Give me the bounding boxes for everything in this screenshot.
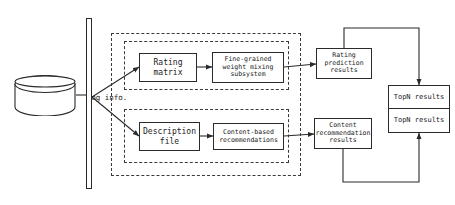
node-topn-results-upper[interactable]: TopN results xyxy=(388,85,450,109)
pipeline-split-bar xyxy=(86,18,92,189)
node-rating-matrix[interactable]: Rating matrix xyxy=(139,53,197,82)
log-info-cylinder: Log info. xyxy=(14,75,76,116)
node-content-recommendation-results[interactable]: Content recommendation results xyxy=(314,118,372,149)
node-content-based-recommendations[interactable]: Content-based recommendations xyxy=(213,123,284,150)
node-description-file[interactable]: Description file xyxy=(139,122,200,151)
node-rating-prediction-results[interactable]: Rating prediction results xyxy=(316,48,372,79)
node-fine-grained-weight-mixing-subsystem[interactable]: Fine-grained weight mixing subsystem xyxy=(212,52,284,83)
node-topn-results-lower[interactable]: TopN results xyxy=(388,109,450,133)
diagram-canvas: Log info. Rating matrix Fine-grained wei… xyxy=(0,0,455,205)
cylinder-icon xyxy=(14,75,76,116)
